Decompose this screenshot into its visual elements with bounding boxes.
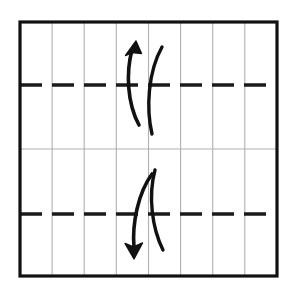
origami-fold-diagram: Origami pleat fold diagram <box>0 0 292 291</box>
fold-diagram-container: Origami pleat fold diagram <box>0 0 292 291</box>
